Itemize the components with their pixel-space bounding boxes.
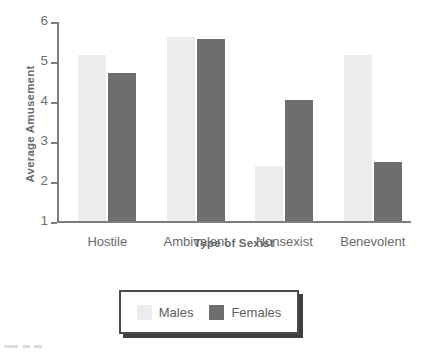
bar-ambivalent-males	[167, 37, 195, 221]
legend-swatch-females-icon	[209, 305, 224, 320]
scan-artifact	[4, 345, 48, 348]
x-axis-line	[57, 221, 411, 223]
x-axis-title: Type of Sexist	[57, 237, 411, 249]
bar-benevolent-females	[374, 162, 402, 221]
y-tick-label: 1	[40, 212, 48, 230]
chart-legend: Males Females	[119, 290, 299, 334]
bar-nonsexist-males	[255, 166, 283, 221]
legend-entry-females: Females	[209, 305, 281, 320]
y-tick-label: 5	[40, 52, 48, 70]
y-tick-mark	[51, 222, 57, 224]
legend-label-females: Females	[231, 305, 281, 320]
y-tick-label: 2	[40, 172, 48, 190]
y-tick-label: 4	[40, 92, 48, 110]
bar-nonsexist-females	[285, 100, 313, 221]
y-axis-line	[57, 22, 59, 222]
legend-entry-males: Males	[137, 305, 194, 320]
y-tick-mark	[51, 102, 57, 104]
legend-swatch-males-icon	[137, 305, 152, 320]
bar-ambivalent-females	[197, 39, 225, 221]
bar-chart-figure: Average Amusement 123456 HostileAmbivale…	[0, 0, 421, 353]
y-tick-mark	[51, 182, 57, 184]
plot-area: 123456 HostileAmbivalentNonsexistBenevol…	[57, 22, 411, 222]
legend-label-males: Males	[159, 305, 194, 320]
y-axis-title: Average Amusement	[24, 34, 36, 214]
y-tick-mark	[51, 142, 57, 144]
bar-benevolent-males	[344, 55, 372, 221]
bar-hostile-females	[108, 73, 136, 221]
y-tick-mark	[51, 22, 57, 24]
y-tick-label: 6	[40, 12, 48, 30]
y-tick-mark	[51, 62, 57, 64]
bar-hostile-males	[78, 55, 106, 221]
y-tick-label: 3	[40, 132, 48, 150]
